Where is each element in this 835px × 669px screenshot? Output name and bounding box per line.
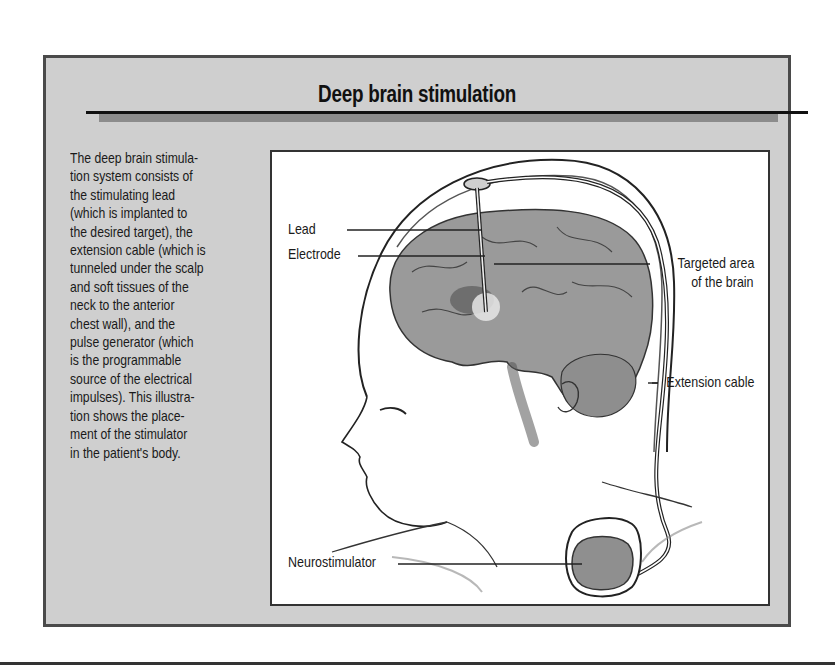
caption-line: tunneled under the scalp [70, 259, 251, 277]
label-lead: Lead [288, 221, 316, 237]
caption-line: pulse generator (which [70, 333, 251, 351]
label-extension-cable: Extension cable [666, 374, 754, 390]
face-profile [342, 397, 447, 526]
label-neurostimulator: Neurostimulator [288, 554, 376, 570]
caption-line: the stimulating lead [70, 186, 251, 204]
page-bottom-rule [0, 662, 835, 665]
caption-line: is the programmable [70, 351, 251, 369]
caption-line: (which is implanted to [70, 204, 251, 222]
caption-line: in the patient's body. [70, 444, 251, 462]
title-rule-shadow [99, 114, 778, 122]
label-targeted-area-line1: Targeted area [677, 255, 754, 271]
caption-line: extension cable (which is [70, 241, 251, 259]
caption-line: tion shows the place- [70, 407, 251, 425]
caption-line: impulses). This illustra- [70, 388, 251, 406]
label-targeted-area-line2: of the brain [692, 274, 754, 290]
caption-line: source of the electrical [70, 370, 251, 388]
caption-line: and soft tissues of the [70, 278, 251, 296]
label-electrode: Electrode [288, 246, 341, 262]
figure-box: Deep brain stimulation The deep brain st… [43, 55, 791, 627]
caption-line: chest wall), and the [70, 315, 251, 333]
caption-line: the desired target), the [70, 223, 251, 241]
figure-caption: The deep brain stimula- tion system cons… [70, 149, 251, 462]
figure-title: Deep brain stimulation [113, 81, 721, 108]
caption-line: The deep brain stimula- [70, 149, 251, 167]
caption-line: neck to the anterior [70, 296, 251, 314]
illustration-panel: Lead Electrode Targeted area of the brai… [270, 150, 770, 606]
caption-line: ment of the stimulator [70, 425, 251, 443]
caption-line: tion system consists of [70, 167, 251, 185]
